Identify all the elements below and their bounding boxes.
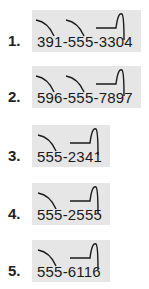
phone-number: 555-2555 — [37, 207, 102, 222]
phone-number: 555-2341 — [37, 149, 102, 164]
list-item: 5. 555-6116 — [0, 240, 149, 284]
phone-box: 555-6116 — [32, 240, 110, 282]
list-item: 1. 391-555-3304 — [0, 10, 149, 54]
phone-box: 596-555-7897 — [32, 66, 141, 108]
list-item: 4. 555-2555 — [0, 183, 149, 227]
list-item: 2. 596-555-7897 — [0, 66, 149, 110]
item-number: 1. — [8, 33, 21, 48]
item-number: 4. — [8, 206, 21, 221]
phone-box: 555-2341 — [32, 125, 110, 167]
list-item: 3. 555-2341 — [0, 125, 149, 169]
phone-box: 391-555-3304 — [32, 10, 141, 52]
phone-number: 555-6116 — [37, 264, 101, 279]
phone-number: 391-555-3304 — [37, 34, 133, 49]
phone-number: 596-555-7897 — [37, 90, 133, 105]
item-number: 2. — [8, 89, 21, 104]
phone-box: 555-2555 — [32, 183, 110, 225]
item-number: 3. — [8, 148, 21, 163]
item-number: 5. — [8, 263, 21, 278]
